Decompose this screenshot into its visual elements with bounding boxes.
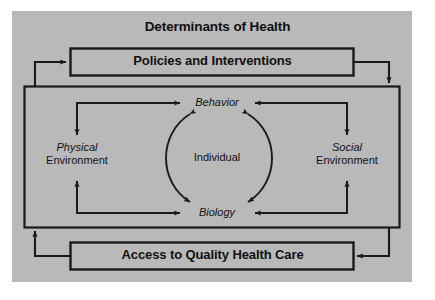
figure-canvas: Determinants of Health Policies and Inte… [0,0,435,300]
social-environment-line1: Social [302,141,392,154]
policies-box-label: Policies and Interventions [71,54,354,68]
connector-social-to-biology [255,181,347,213]
connector-frame-to-policies [35,62,66,86]
behavior-label: Behavior [177,97,257,109]
connector-physical-to-biology [77,181,180,213]
access-box-label: Access to Quality Health Care [71,248,354,262]
social-environment-line2: Environment [302,154,392,167]
connector-access-to-frame [35,231,70,256]
physical-environment-line1: Physical [32,141,122,154]
biology-label: Biology [177,207,257,219]
connector-social-to-behavior [255,103,347,135]
connector-frame-to-access [357,228,389,256]
physical-environment-line2: Environment [32,154,122,167]
page-title: Determinants of Health [0,20,435,35]
connector-physical-to-behavior [77,103,180,135]
social-environment-label: Social Environment [302,141,392,166]
individual-label: Individual [177,152,257,164]
connector-policies-to-frame [354,62,389,83]
physical-environment-label: Physical Environment [32,141,122,166]
